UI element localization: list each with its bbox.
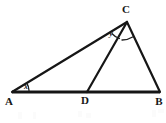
faint-mark-5 <box>152 110 156 117</box>
faint-mark-2 <box>33 112 36 119</box>
faint-mark-1 <box>18 112 22 119</box>
faint-mark-3 <box>78 111 82 117</box>
angle-label-y: y <box>108 29 113 38</box>
geometry-canvas: x y A D B C <box>0 0 166 123</box>
vertex-label-D: D <box>81 94 89 106</box>
angle-label-x: x <box>23 82 28 91</box>
geometry-diagram: x y A D B C <box>0 0 166 123</box>
vertex-label-C: C <box>122 3 130 15</box>
faint-mark-6 <box>158 109 164 113</box>
vertex-label-A: A <box>5 95 13 107</box>
vertex-label-B: B <box>155 95 163 107</box>
faint-mark-4 <box>86 113 91 118</box>
